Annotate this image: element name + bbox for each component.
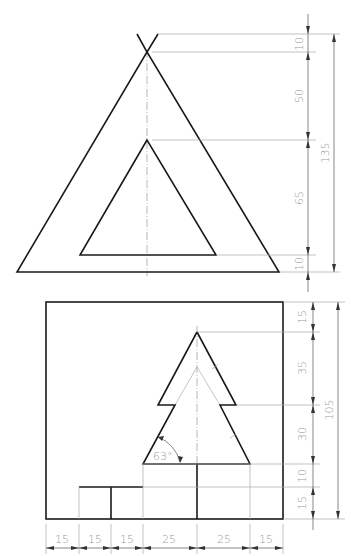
- dim-label-135: 135: [319, 143, 332, 164]
- dim-label-35: 35: [296, 361, 309, 375]
- dim-label-10b: 10: [293, 257, 306, 271]
- arrow-icon: [306, 132, 310, 140]
- dim-label-30: 30: [296, 427, 309, 441]
- dim-label-50: 50: [293, 89, 306, 103]
- arrow-icon: [306, 247, 310, 255]
- arrow-icon: [311, 511, 315, 519]
- technical-drawing: 10 50 65 10 135 63°: [0, 0, 351, 556]
- arrow-icon: [311, 456, 315, 464]
- bottom-view: 63° 15 35 30 10 15 105: [46, 302, 345, 554]
- top-view: 10 50 65 10 135: [17, 14, 340, 292]
- dim-label-65: 65: [293, 191, 306, 205]
- hidden-edge: [175, 367, 220, 405]
- arrow-icon: [311, 487, 315, 495]
- arrow-icon: [311, 332, 315, 340]
- arrow-icon: [332, 34, 336, 42]
- dim-label-10: 10: [296, 469, 309, 483]
- dim-label-15: 15: [296, 310, 309, 324]
- arrow-icon: [311, 397, 315, 405]
- arrow-icon: [311, 405, 315, 413]
- arrow-icon: [158, 436, 164, 441]
- arrow-icon: [311, 302, 315, 310]
- arrow-icon: [178, 456, 183, 463]
- dim-label-h6: 15: [259, 533, 273, 546]
- inner-triangle: [80, 140, 216, 255]
- arrow-icon: [306, 26, 310, 34]
- dim-label-15b: 15: [296, 496, 309, 510]
- arrow-icon: [306, 272, 310, 280]
- dim-label-h5: 25: [217, 533, 231, 546]
- arrow-icon: [332, 264, 336, 272]
- angle-label: 63°: [153, 450, 173, 463]
- dim-label-10: 10: [293, 37, 306, 51]
- arrow-icon: [311, 324, 315, 332]
- dim-label-105: 105: [323, 400, 336, 421]
- dim-label-h4: 25: [162, 533, 176, 546]
- tree-outline: [143, 332, 250, 464]
- dim-label-h1: 15: [55, 533, 69, 546]
- dim-label-h3: 15: [120, 533, 134, 546]
- arrow-icon: [336, 302, 340, 310]
- arrow-icon: [336, 511, 340, 519]
- dim-label-h2: 15: [88, 533, 102, 546]
- outer-triangle: [17, 34, 279, 272]
- arrow-icon: [306, 140, 310, 148]
- arrow-icon: [306, 52, 310, 60]
